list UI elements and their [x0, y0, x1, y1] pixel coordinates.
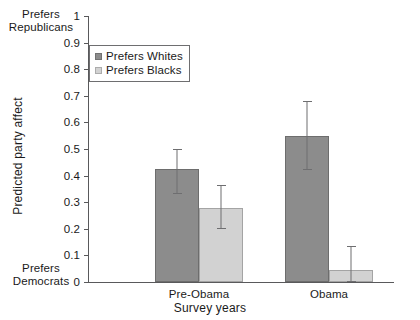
legend-label-blacks: Prefers Blacks	[106, 64, 182, 76]
error-bar-stem	[221, 185, 222, 229]
error-bar-cap-top	[173, 149, 182, 150]
y-axis-bottom-anchor-label: Prefers Democrats	[2, 262, 80, 288]
legend-item-prefers-blacks: Prefers Blacks	[95, 63, 183, 77]
y-axis-top-anchor-line1: Prefers	[2, 8, 80, 21]
legend-label-whites: Prefers Whites	[106, 50, 183, 62]
y-axis-tick-label: 0.6	[64, 116, 80, 128]
y-axis-top-anchor-line2: Republicans	[2, 21, 80, 34]
y-axis-tick-label: 0	[74, 276, 81, 288]
y-axis-tick-label: 0.4	[64, 170, 80, 182]
y-axis-tick	[84, 16, 88, 17]
error-bar-cap-bottom	[347, 281, 356, 282]
bar-chart-figure: Prefers Republicans Prefers Democrats Pr…	[0, 0, 420, 320]
error-bar-cap-top	[303, 101, 312, 102]
error-bar-stem	[177, 149, 178, 194]
x-axis-label-obama: Obama	[310, 288, 348, 300]
y-axis-tick	[84, 202, 88, 203]
y-axis-tick-label: 0.9	[64, 37, 80, 49]
y-axis-tick-label: 0.3	[64, 196, 80, 208]
y-axis-tick	[84, 122, 88, 123]
legend: Prefers Whites Prefers Blacks	[89, 45, 190, 82]
y-axis-tick	[84, 43, 88, 44]
y-axis-title: Predicted party affect	[11, 97, 25, 215]
error-bar-stem	[307, 101, 308, 170]
error-bar-cap-bottom	[217, 228, 226, 229]
y-axis-tick-label: 1	[74, 10, 81, 22]
y-axis-tick-label: 0.7	[64, 90, 80, 102]
y-axis-tick-label: 0.5	[64, 143, 80, 155]
error-bar-cap-top	[347, 246, 356, 247]
error-bar-stem	[351, 246, 352, 282]
y-axis-tick	[84, 229, 88, 230]
y-axis-tick	[84, 255, 88, 256]
legend-swatch-icon-blacks	[95, 67, 102, 74]
error-bar-cap-bottom	[173, 193, 182, 194]
y-axis-tick-label: 0.8	[64, 63, 80, 75]
x-axis-label-pre-obama: Pre-Obama	[169, 288, 229, 300]
y-axis-tick	[84, 176, 88, 177]
legend-item-prefers-whites: Prefers Whites	[95, 49, 183, 63]
error-bar-cap-bottom	[303, 169, 312, 170]
y-axis-tick	[84, 96, 88, 97]
y-axis-bottom-anchor-line2: Democrats	[2, 275, 80, 288]
y-axis-bottom-anchor-line1: Prefers	[2, 262, 80, 275]
y-axis-top-anchor-label: Prefers Republicans	[2, 8, 80, 34]
y-axis-tick	[84, 69, 88, 70]
y-axis-tick-label: 0.2	[64, 223, 80, 235]
error-bar-cap-top	[217, 185, 226, 186]
x-axis-line	[88, 282, 394, 283]
legend-swatch-icon-whites	[95, 53, 102, 60]
y-axis-tick	[84, 282, 88, 283]
y-axis-tick-label: 0.1	[64, 249, 80, 261]
x-axis-title: Survey years	[0, 301, 420, 315]
y-axis-tick	[84, 149, 88, 150]
